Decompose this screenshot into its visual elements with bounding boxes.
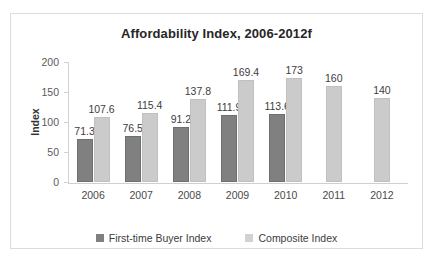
bar — [173, 127, 189, 182]
x-tick-label: 2012 — [370, 189, 393, 201]
x-axis-line — [68, 183, 408, 184]
bar — [326, 86, 342, 182]
legend-item[interactable]: Composite Index — [245, 232, 337, 244]
bar-value-label: 137.8 — [185, 85, 211, 97]
bar — [77, 139, 93, 182]
legend-label: Composite Index — [258, 232, 337, 244]
chart-title: Affordability Index, 2006-2012f — [11, 26, 422, 41]
legend-item[interactable]: First-time Buyer Index — [96, 232, 212, 244]
bar-value-label: 71.3 — [74, 125, 94, 137]
bar — [269, 114, 285, 182]
legend-label: First-time Buyer Index — [109, 232, 212, 244]
legend-swatch-icon — [96, 234, 104, 242]
x-tick-label: 2006 — [81, 189, 104, 201]
bar — [286, 78, 302, 182]
x-tick-label: 2009 — [226, 189, 249, 201]
plot-area: 71.3107.676.5115.491.2137.8111.9169.4113… — [69, 62, 406, 182]
x-tick-label: 2007 — [130, 189, 153, 201]
bar — [374, 98, 390, 182]
bar — [238, 80, 254, 182]
y-tick-label: 0 — [33, 176, 59, 188]
bar — [221, 115, 237, 182]
bar — [142, 113, 158, 182]
bar-value-label: 107.6 — [88, 103, 114, 115]
chart-legend: First-time Buyer IndexComposite Index — [11, 232, 422, 244]
legend-swatch-icon — [245, 234, 253, 242]
bar-value-label: 115.4 — [137, 99, 163, 111]
x-tick-label: 2010 — [274, 189, 297, 201]
y-tick-label: 200 — [33, 56, 59, 68]
bar-value-label: 140 — [373, 84, 391, 96]
bar-value-label: 76.5 — [122, 122, 142, 134]
bar-value-label: 169.4 — [233, 66, 259, 78]
y-tick-mark — [64, 182, 69, 183]
y-tick-label: 150 — [33, 86, 59, 98]
x-tick-label: 2011 — [322, 189, 345, 201]
bar — [94, 117, 110, 182]
bar-value-label: 160 — [325, 72, 343, 84]
chart-frame: Affordability Index, 2006-2012f Index 05… — [10, 13, 423, 249]
x-tick-label: 2008 — [178, 189, 201, 201]
bar-value-label: 91.2 — [171, 113, 191, 125]
bar-value-label: 173 — [285, 64, 303, 76]
bar — [190, 99, 206, 182]
bar — [125, 136, 141, 182]
y-tick-label: 50 — [33, 146, 59, 158]
y-tick-label: 100 — [33, 116, 59, 128]
